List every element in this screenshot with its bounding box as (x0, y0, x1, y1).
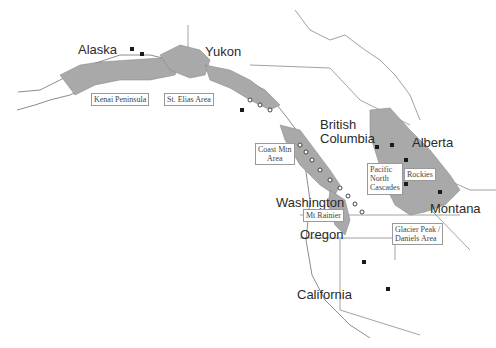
callout-pnc-line3: Cascades (370, 183, 400, 192)
region-rockies (370, 108, 460, 215)
callout-coast-mtn-area: Coast Mtn Area (255, 143, 295, 165)
label-washington: Washington (276, 196, 344, 209)
glacier-regions (60, 45, 460, 235)
label-oregon: Oregon (300, 228, 343, 241)
callout-rockies: Rockies (404, 168, 436, 181)
label-alaska: Alaska (78, 43, 117, 56)
callout-coast-mtn-line1: Coast Mtn (258, 145, 292, 154)
callout-pnc-line2: North (370, 174, 400, 183)
callout-coast-mtn-line2: Area (258, 154, 292, 163)
label-british-columbia-line2: Columbia (320, 132, 375, 146)
callout-st-elias-area: St. Elias Area (164, 93, 214, 106)
callout-pnc-line1: Pacific (370, 165, 400, 174)
callout-glacier-peak-line2: Daniels Area (395, 234, 440, 243)
callout-mt-rainier: Mt Rainier (303, 209, 344, 222)
label-yukon: Yukon (205, 45, 241, 58)
label-alberta: Alberta (412, 136, 453, 149)
callout-kenai-peninsula: Kenai Peninsula (91, 93, 149, 106)
callout-glacier-peak-line1: Glacier Peak / (395, 225, 440, 234)
region-alaska-range (60, 58, 180, 95)
callout-glacier-peak-daniels: Glacier Peak / Daniels Area (392, 223, 443, 245)
region-coastal-alaska (205, 65, 280, 110)
label-montana: Montana (430, 202, 481, 215)
label-california: California (297, 288, 352, 301)
label-british-columbia-line1: British (320, 118, 375, 132)
callout-pacific-north-cascades: Pacific North Cascades (367, 163, 403, 195)
label-british-columbia: British Columbia (320, 118, 375, 147)
